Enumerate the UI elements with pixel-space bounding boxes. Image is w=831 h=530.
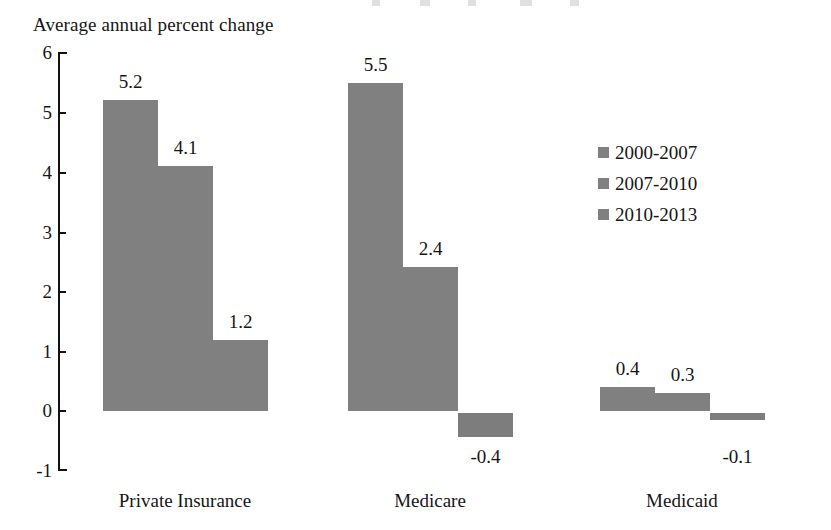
bar-value-label-private-2007-2010: 4.1 bbox=[158, 138, 213, 157]
category-label-private-insurance: Private Insurance bbox=[85, 490, 285, 512]
y-tick-2 bbox=[58, 291, 66, 293]
bar-value-label-medicaid-2000-2007: 0.4 bbox=[600, 359, 655, 378]
bar-value-label-medicare-2010-2013: -0.4 bbox=[450, 447, 521, 466]
bar-medicaid-2007-2010 bbox=[655, 393, 710, 411]
legend-label: 2007-2010 bbox=[615, 174, 697, 193]
bar-value-label-medicaid-2010-2013: -0.1 bbox=[702, 447, 773, 466]
bar-value-label-medicaid-2007-2010: 0.3 bbox=[655, 365, 710, 384]
category-label-medicare: Medicare bbox=[330, 490, 530, 512]
bar-value-label-private-2010-2013: 1.2 bbox=[213, 312, 268, 331]
bar-private-insurance-2000-2007 bbox=[103, 100, 158, 411]
legend-label: 2000-2007 bbox=[615, 143, 697, 162]
y-tick-3 bbox=[58, 232, 66, 234]
y-tick-label-5: 5 bbox=[6, 103, 52, 122]
legend-swatch-icon bbox=[598, 147, 609, 158]
legend-item-2007-2010[interactable]: 2007-2010 bbox=[598, 168, 697, 199]
bar-value-label-medicare-2000-2007: 5.5 bbox=[348, 55, 403, 74]
bar-chart: Average annual percent change 6 5 4 3 2 … bbox=[0, 0, 831, 530]
bar-value-label-medicare-2007-2010: 2.4 bbox=[403, 239, 458, 258]
bar-value-label-private-2000-2007: 5.2 bbox=[103, 72, 158, 91]
legend-item-2000-2007[interactable]: 2000-2007 bbox=[598, 137, 697, 168]
bar-medicaid-2010-2013 bbox=[710, 413, 765, 420]
legend-swatch-icon bbox=[598, 178, 609, 189]
bar-private-insurance-2010-2013 bbox=[213, 340, 268, 411]
bar-medicaid-2000-2007 bbox=[600, 387, 655, 411]
y-tick-neg1 bbox=[58, 469, 66, 471]
plot-area: 6 5 4 3 2 1 0 -1 5.2 4.1 1.2 5.5 2.4 -0.… bbox=[0, 0, 831, 530]
y-tick-0 bbox=[58, 410, 66, 412]
legend: 2000-2007 2007-2010 2010-2013 bbox=[598, 137, 697, 230]
y-tick-1 bbox=[58, 351, 66, 353]
y-tick-label-3: 3 bbox=[6, 223, 52, 242]
y-tick-label-1: 1 bbox=[6, 342, 52, 361]
bar-medicare-2007-2010 bbox=[403, 267, 458, 411]
y-tick-4 bbox=[58, 172, 66, 174]
bar-private-insurance-2007-2010 bbox=[158, 166, 213, 411]
bar-medicare-2000-2007 bbox=[348, 83, 403, 411]
y-tick-label-6: 6 bbox=[6, 43, 52, 62]
legend-label: 2010-2013 bbox=[615, 205, 697, 224]
y-tick-label-2: 2 bbox=[6, 282, 52, 301]
legend-swatch-icon bbox=[598, 209, 609, 220]
y-axis-line bbox=[58, 52, 60, 471]
category-label-medicaid: Medicaid bbox=[582, 490, 782, 512]
y-tick-6 bbox=[58, 52, 66, 54]
legend-item-2010-2013[interactable]: 2010-2013 bbox=[598, 199, 697, 230]
y-tick-label-4: 4 bbox=[6, 163, 52, 182]
y-tick-label-neg1: -1 bbox=[6, 461, 52, 480]
bar-medicare-2010-2013 bbox=[458, 413, 513, 437]
y-tick-5 bbox=[58, 112, 66, 114]
y-tick-label-0: 0 bbox=[6, 401, 52, 420]
